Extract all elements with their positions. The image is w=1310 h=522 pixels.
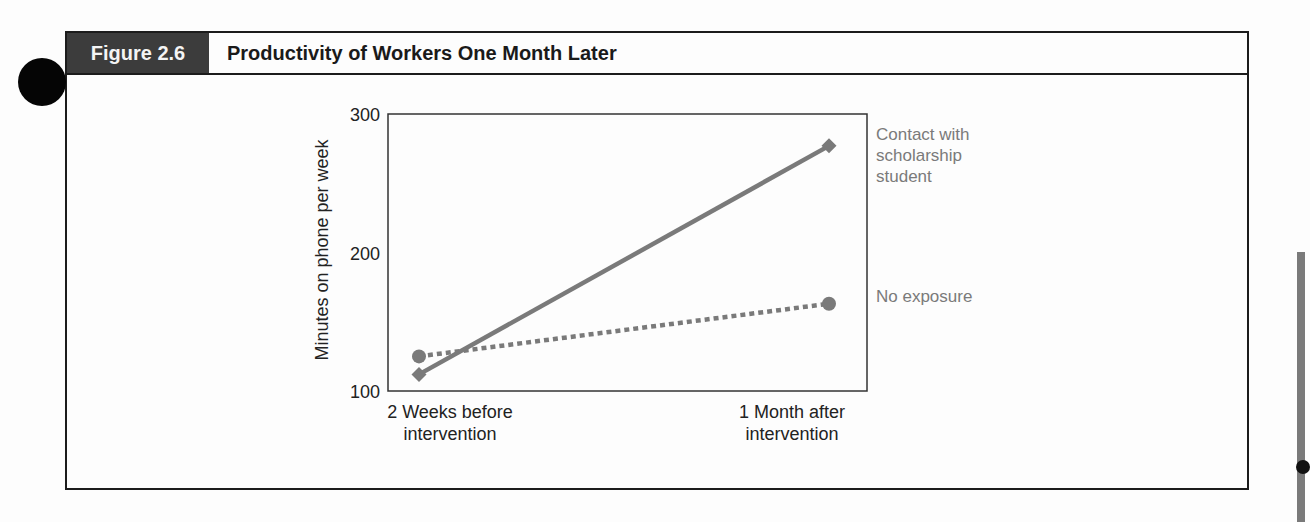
legend-label: No exposure	[876, 287, 972, 306]
circle-marker-icon	[412, 349, 426, 363]
legend-label: scholarship	[876, 146, 962, 165]
legend: Contact withscholarshipstudentNo exposur…	[876, 125, 972, 306]
no-exposure-line	[419, 304, 829, 357]
circle-marker-icon	[822, 297, 836, 311]
x-category-label: 1 Month after	[739, 402, 845, 422]
legend-label: student	[876, 167, 932, 186]
x-category-label: intervention	[745, 424, 838, 444]
y-tick-label: 200	[350, 244, 380, 264]
x-category-label: 2 Weeks before	[387, 402, 513, 422]
y-tick-label: 100	[350, 382, 380, 402]
contact-line	[419, 146, 829, 375]
legend-label: Contact with	[876, 125, 970, 144]
x-category-label: intervention	[403, 424, 496, 444]
x-axis-categories: 2 Weeks beforeintervention1 Month afteri…	[387, 402, 845, 444]
y-axis-ticks: 100200300	[350, 105, 380, 402]
series-group	[412, 138, 837, 382]
y-axis-label: Minutes on phone per week	[312, 138, 332, 360]
y-tick-label: 300	[350, 105, 380, 125]
